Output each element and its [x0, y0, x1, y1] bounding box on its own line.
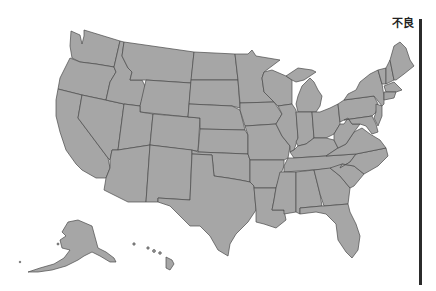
state-kansas[interactable] — [198, 129, 248, 154]
state-florida[interactable] — [300, 204, 360, 258]
alaska-island — [57, 243, 59, 245]
hawaii-island — [133, 243, 135, 245]
state-south-dakota[interactable] — [189, 80, 240, 108]
hawaii-island — [147, 247, 149, 249]
state-hawaii[interactable] — [166, 257, 174, 270]
state-connecticut[interactable] — [384, 92, 396, 100]
hawaii-island — [159, 252, 162, 255]
alaska-island — [19, 261, 21, 263]
us-state-map — [0, 0, 436, 291]
hawaii-island — [153, 250, 156, 253]
state-north-dakota[interactable] — [191, 52, 238, 80]
state-iowa[interactable] — [240, 102, 282, 126]
state-new-mexico[interactable] — [146, 145, 192, 202]
alaska — [19, 220, 116, 272]
state-maine[interactable] — [390, 42, 414, 80]
hawaii — [133, 243, 174, 270]
legend-label: 不良 — [392, 14, 414, 30]
legend-color-bar — [419, 19, 422, 285]
state-colorado[interactable] — [150, 114, 200, 151]
state-alaska[interactable] — [28, 220, 116, 272]
state-wyoming[interactable] — [140, 80, 191, 117]
state-montana[interactable] — [122, 42, 194, 83]
contiguous-us — [56, 30, 414, 258]
